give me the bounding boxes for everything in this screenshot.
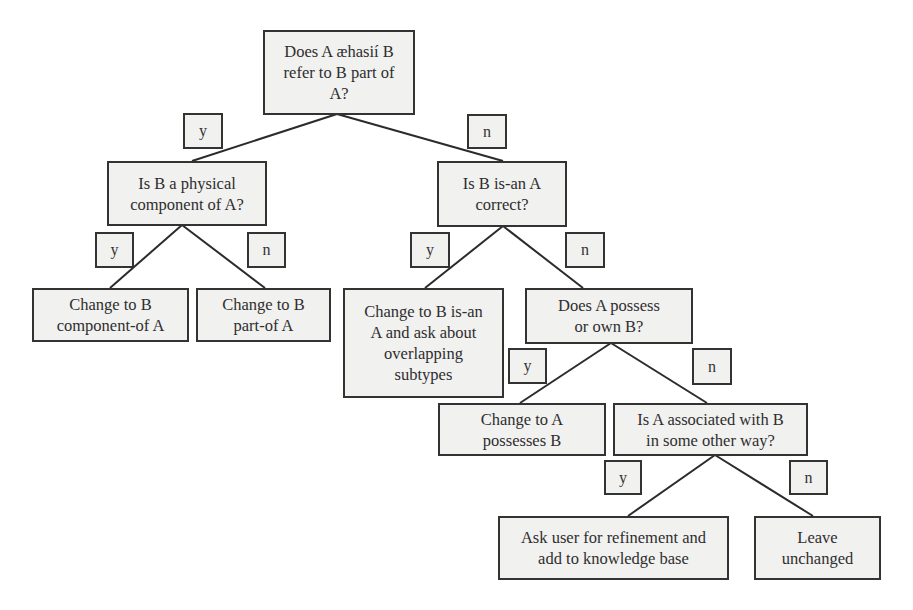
node-change-to-isan-ask-subtypes: Change to B is-an A and ask about overla… xyxy=(343,288,504,398)
node-ask-user-refinement: Ask user for refinement and add to knowl… xyxy=(498,516,729,580)
node-isan-correct-question: Is B is-an A correct? xyxy=(437,161,567,227)
node-physical-component-question: Is B a physical component of A? xyxy=(107,161,267,226)
edge-label-no: n xyxy=(692,348,732,385)
edge-label-no: n xyxy=(565,232,605,268)
node-change-to-part-of: Change to B part-of A xyxy=(196,288,331,342)
node-root-question: Does A æhasií B refer to B part of A? xyxy=(263,30,415,115)
edge-label-yes: y xyxy=(410,232,450,268)
edge-label-no: n xyxy=(789,460,828,495)
edge-label-yes: y xyxy=(183,113,223,149)
node-change-to-possesses: Change to A possesses B xyxy=(438,403,606,456)
node-change-to-component-of: Change to B component-of A xyxy=(32,288,189,342)
edge-label-yes: y xyxy=(604,460,642,495)
edge-label-no: n xyxy=(467,114,507,149)
node-leave-unchanged: Leave unchanged xyxy=(754,516,881,580)
node-associated-question: Is A associated with B in some other way… xyxy=(613,403,808,456)
node-possess-question: Does A possess or own B? xyxy=(525,288,693,344)
edge-label-yes: y xyxy=(508,348,547,384)
edge-label-no: n xyxy=(247,232,286,268)
edge-label-yes: y xyxy=(95,232,134,268)
